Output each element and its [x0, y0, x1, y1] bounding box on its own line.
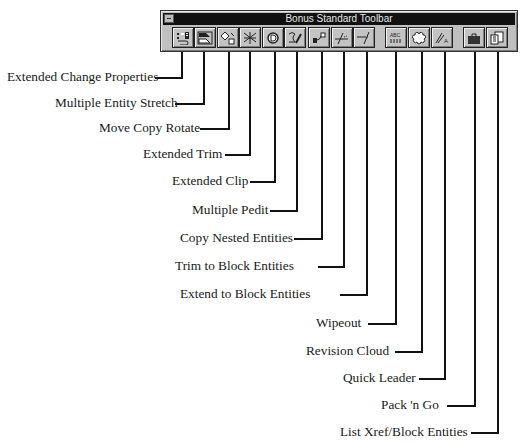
callout-extended-change-properties: Extended Change Properties	[7, 69, 158, 85]
svg-text:ABC: ABC	[390, 32, 401, 38]
copy-nested-entities-button[interactable]	[308, 27, 330, 48]
callout-line	[471, 432, 499, 434]
bonus-standard-toolbar: Bonus Standard Toolbar ABC A	[160, 10, 518, 52]
callout-multiple-pedit: Multiple Pedit	[192, 202, 268, 218]
svg-text:A: A	[444, 38, 448, 44]
trim-block-icon	[334, 31, 350, 45]
revision-cloud-icon	[411, 31, 427, 45]
change-properties-icon	[175, 31, 191, 45]
callout-multiple-entity-stretch: Multiple Entity Stretch	[55, 95, 178, 111]
callout-line	[421, 52, 423, 353]
extend-block-icon	[356, 31, 372, 45]
pack-n-go-button[interactable]	[463, 27, 485, 48]
callout-line	[395, 52, 397, 325]
toolbar-title-bar[interactable]: Bonus Standard Toolbar	[163, 13, 515, 25]
callout-line	[274, 52, 276, 183]
callout-extend-to-block-entities: Extend to Block Entities	[180, 286, 310, 302]
callout-line	[340, 294, 368, 296]
callout-move-copy-rotate: Move Copy Rotate	[99, 120, 200, 136]
briefcase-icon	[466, 31, 482, 45]
callout-line	[175, 103, 205, 105]
callout-line	[395, 351, 423, 353]
callout-line	[318, 266, 345, 268]
extended-clip-icon	[265, 31, 281, 45]
callout-line	[474, 52, 476, 407]
callout-line	[203, 52, 205, 105]
extended-trim-icon	[242, 31, 258, 45]
callout-extended-trim: Extended Trim	[143, 146, 222, 162]
callout-line	[294, 238, 323, 240]
callout-line	[343, 52, 345, 268]
callout-extended-clip: Extended Clip	[172, 173, 248, 189]
trim-to-block-entities-button[interactable]	[331, 27, 353, 48]
move-copy-rotate-button[interactable]	[217, 27, 239, 48]
move-copy-rotate-icon	[220, 31, 236, 45]
extended-trim-button[interactable]	[239, 27, 261, 48]
list-xref-icon	[489, 31, 505, 45]
callout-quick-leader: Quick Leader	[343, 370, 416, 386]
callout-line	[181, 52, 183, 79]
callout-line	[321, 52, 323, 240]
callout-list-xref-block-entities: List Xref/Block Entities	[340, 424, 468, 440]
callout-line	[368, 323, 397, 325]
multiple-pedit-icon	[287, 31, 303, 45]
callout-copy-nested-entities: Copy Nested Entities	[180, 230, 293, 246]
extended-change-properties-button[interactable]	[172, 27, 194, 48]
callout-trim-to-block-entities: Trim to Block Entities	[175, 258, 294, 274]
callout-pack-n-go: Pack 'n Go	[381, 397, 439, 413]
extend-to-block-entities-button[interactable]	[353, 27, 375, 48]
callout-line	[296, 52, 298, 212]
stretch-icon	[197, 31, 213, 45]
callout-line	[225, 154, 251, 156]
wipeout-icon: ABC	[388, 31, 404, 45]
callout-line	[270, 210, 298, 212]
system-menu-icon[interactable]	[164, 14, 174, 23]
multiple-entity-stretch-button[interactable]	[194, 27, 216, 48]
copy-nested-icon	[311, 31, 327, 45]
callout-line	[419, 378, 446, 380]
callout-line	[228, 52, 230, 130]
callout-line	[447, 405, 476, 407]
quick-leader-button[interactable]: A	[431, 27, 453, 48]
callout-line	[155, 77, 183, 79]
toolbar-title: Bonus Standard Toolbar	[285, 13, 392, 24]
callout-line	[497, 52, 499, 434]
wipeout-button[interactable]: ABC	[385, 27, 407, 48]
callout-revision-cloud: Revision Cloud	[306, 343, 389, 359]
extended-clip-button[interactable]	[262, 27, 284, 48]
callout-line	[249, 52, 251, 156]
list-xref-block-entities-button[interactable]	[486, 27, 508, 48]
callout-wipeout: Wipeout	[316, 315, 361, 331]
callout-line	[250, 181, 276, 183]
callout-line	[444, 52, 446, 380]
multiple-pedit-button[interactable]	[284, 27, 306, 48]
quick-leader-icon: A	[434, 31, 450, 45]
revision-cloud-button[interactable]	[408, 27, 430, 48]
callout-line	[366, 52, 368, 296]
callout-line	[200, 128, 230, 130]
